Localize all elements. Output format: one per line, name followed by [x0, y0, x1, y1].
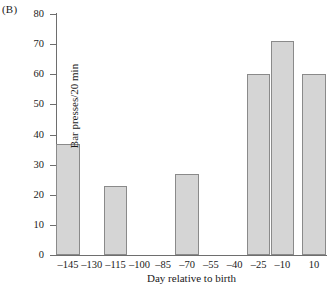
- y-axis-tick-label: 50: [4, 99, 44, 109]
- y-axis-tick: [50, 255, 56, 256]
- y-axis-tick-label: 10: [4, 220, 44, 230]
- x-axis-title: Day relative to birth: [56, 272, 327, 284]
- bar: [271, 41, 294, 255]
- bar: [302, 74, 325, 255]
- y-axis-tick-label: 70: [4, 39, 44, 49]
- plot-area: Bar presses/20 min: [56, 14, 326, 255]
- bar: [175, 174, 198, 255]
- y-axis-tick-label: 30: [4, 160, 44, 170]
- y-axis-tick-label: 40: [4, 130, 44, 140]
- y-axis-tick-label: 80: [4, 9, 44, 19]
- x-axis-line: [56, 255, 327, 256]
- bar: [104, 186, 127, 255]
- x-axis-tick-label: 10: [294, 259, 333, 270]
- y-axis-tick-label: 20: [4, 190, 44, 200]
- y-axis-tick-label: 60: [4, 69, 44, 79]
- figure-panel-b: (B) 01020304050607080 –145–130–115–100–8…: [0, 0, 333, 289]
- y-axis-title: Bar presses/20 min: [68, 36, 80, 176]
- y-axis-tick-label: 0: [4, 250, 44, 260]
- bar: [247, 74, 270, 255]
